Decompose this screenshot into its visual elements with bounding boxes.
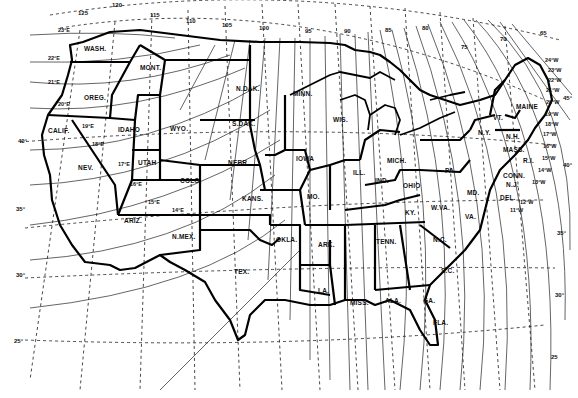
isogonic-label: 18°W <box>545 122 559 128</box>
isogonic-label: 22°E <box>48 56 60 62</box>
state-label-conn: CONN. <box>503 173 525 180</box>
isogonic-label: 12°W <box>520 200 534 206</box>
parallel-30 <box>25 267 555 278</box>
state-label-sc: S.C. <box>441 268 454 275</box>
state-label-wis: WIS. <box>333 117 348 124</box>
isogonic-label: 16°W <box>543 144 557 150</box>
parallel-25 <box>25 325 545 343</box>
isogonic-map <box>0 0 578 398</box>
state-label-vt: VT. <box>493 115 503 122</box>
longitude-label: 85 <box>385 27 392 33</box>
state-label-nebr: NEBR. <box>228 160 249 167</box>
isogonic-label: 17°W <box>543 132 557 138</box>
state-label-del: DEL. <box>500 195 516 202</box>
state-label-ny: N.Y. <box>478 130 491 137</box>
state-label-nc: N.C. <box>433 237 447 244</box>
state-label-ohio: OHIO <box>403 183 420 190</box>
isogonic-label: 22°W <box>548 78 562 84</box>
state-label-wva: W.VA. <box>431 205 450 212</box>
state-label-ri: R.I. <box>523 158 534 165</box>
isogonic-label: 19°E <box>82 124 94 130</box>
state-label-iowa: IOWA <box>296 156 314 163</box>
isogonic-label: 15°W <box>542 156 556 162</box>
isogonic-label: 23°W <box>548 68 562 74</box>
state-label-pa: PA. <box>445 168 456 175</box>
isogonic-label: 16°E <box>130 182 142 188</box>
state-label-minn: MINN. <box>293 91 312 98</box>
isogonic-label: 17°E <box>118 162 130 168</box>
latitude-label-right: 45° <box>563 95 572 101</box>
state-label-ind: IND. <box>375 178 389 185</box>
us-outline <box>42 30 552 345</box>
state-label-ala: ALA. <box>385 298 401 305</box>
state-label-sdak: S.DAK. <box>232 121 255 128</box>
state-label-mo: MO. <box>307 194 320 201</box>
longitude-label: 80 <box>422 25 429 31</box>
longitude-label: 110 <box>186 18 196 24</box>
state-label-va: VA. <box>465 214 476 221</box>
state-label-ga: GA. <box>423 298 435 305</box>
state-borders <box>42 30 552 345</box>
longitude-label: 105 <box>222 22 232 28</box>
isogonic-label: 20°W <box>546 100 560 106</box>
state-label-la: LA. <box>318 288 329 295</box>
state-label-ill: ILL. <box>353 170 365 177</box>
longitude-label: 95 <box>305 28 312 34</box>
isogonic-label: 19°W <box>545 112 559 118</box>
state-label-ndak: N.DAK. <box>236 86 260 93</box>
state-label-ariz: ARIZ. <box>124 218 142 225</box>
state-label-colo: COLO. <box>180 178 202 185</box>
longitude-label: 115 <box>150 12 160 18</box>
longitude-label: 70 <box>500 36 507 42</box>
latitude-label: 40° <box>18 138 27 144</box>
state-label-wyo: WYO. <box>170 126 188 133</box>
isogonic-label: 20°E <box>58 102 70 108</box>
state-label-mass: MASS. <box>503 147 525 154</box>
state-label-nev: NEV. <box>78 165 93 172</box>
state-label-md: MD. <box>467 190 480 197</box>
state-label-kans: KANS. <box>242 196 263 203</box>
latitude-label: 30° <box>16 272 25 278</box>
isogonic-label: 14°E <box>172 208 184 214</box>
state-label-utah: UTAH <box>138 160 156 167</box>
isogonic-lines <box>30 20 572 390</box>
isogonic-label: 11°W <box>510 208 523 214</box>
latitude-label-right: 30° <box>555 292 564 298</box>
state-label-wash: WASH. <box>84 46 106 53</box>
state-label-tex: TEX. <box>234 269 249 276</box>
latitude-label-right: 35° <box>557 230 566 236</box>
state-label-tenn: TENN. <box>376 239 397 246</box>
isogonic-label: 23°E <box>58 28 70 34</box>
isogonic-label: 24°W <box>545 58 559 64</box>
state-label-nmex: N.MEX. <box>172 234 196 241</box>
isogonic-label: 13°W <box>532 180 546 186</box>
state-label-mich: MICH. <box>387 158 406 165</box>
latitude-label-right: 40° <box>563 162 572 168</box>
state-label-nh: N.H. <box>506 134 520 141</box>
longitude-label: 90 <box>344 28 351 34</box>
state-label-oreg: OREG. <box>84 95 106 102</box>
isogonic-label: 14°W <box>538 168 552 174</box>
latitude-label-right: 25 <box>551 354 558 360</box>
state-label-calif: CALIF. <box>48 128 69 135</box>
longitude-label: 75 <box>461 44 468 50</box>
state-label-maine: MAINE <box>516 104 538 111</box>
isogonic-label: 21°E <box>48 80 60 86</box>
latitude-label: 35° <box>16 206 25 212</box>
longitude-label: 100 <box>259 25 269 31</box>
state-label-mont: MONT. <box>140 65 161 72</box>
isogonic-label: 15°E <box>148 200 160 206</box>
latitude-label: 25° <box>14 338 23 344</box>
state-label-ky: KY. <box>405 210 416 217</box>
isogonic-label: 21°W <box>546 88 560 94</box>
state-label-fla: FLA. <box>433 320 448 327</box>
state-label-miss: MISS. <box>350 300 369 307</box>
longitude-label: 65 <box>540 30 547 36</box>
isogonic-label: 18°E <box>92 142 104 148</box>
state-label-ark: ARK. <box>318 242 335 249</box>
state-label-okla: OKLA. <box>276 237 297 244</box>
state-label-nj: N.J. <box>506 182 519 189</box>
state-label-idaho: IDAHO <box>118 127 140 134</box>
longitude-label: 125 <box>78 10 88 16</box>
longitude-label: 120 <box>112 2 122 8</box>
